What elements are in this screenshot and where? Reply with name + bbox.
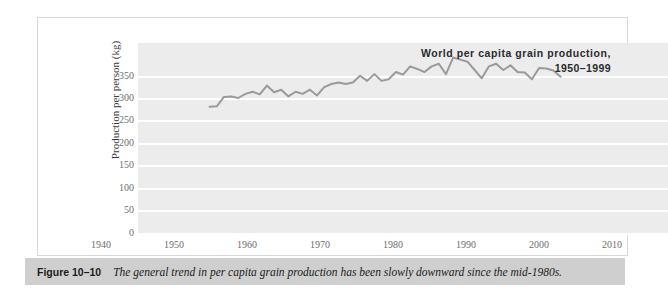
figure-card: World per capita grain production, 1950–… [37, 17, 628, 256]
x-tick-2010: 2010 [590, 239, 634, 250]
chart-title: World per capita grain production, 1950–… [421, 46, 611, 76]
x-tick-1940: 1940 [79, 239, 123, 250]
x-tick-1960: 1960 [225, 239, 269, 250]
y-tick-150: 150 [98, 160, 134, 170]
x-tick-1950: 1950 [152, 239, 196, 250]
figure-caption-label: Figure 10–10 [37, 266, 101, 278]
x-tick-1980: 1980 [371, 239, 415, 250]
y-tick-200: 200 [98, 138, 134, 148]
y-tick-0: 0 [98, 228, 134, 238]
chart-title-main: World per capita grain production, [421, 46, 611, 61]
y-tick-300: 300 [98, 93, 134, 103]
y-tick-350: 350 [98, 71, 134, 81]
figure-caption: Figure 10–10 The general trend in per ca… [37, 258, 562, 285]
figure-caption-band: Figure 10–10 The general trend in per ca… [25, 258, 625, 285]
chart-title-subtitle: 1950–1999 [421, 61, 611, 76]
x-tick-2000: 2000 [517, 239, 561, 250]
x-tick-1990: 1990 [444, 239, 488, 250]
y-axis-ticks: 350 300 250 200 150 100 50 0 [94, 18, 134, 257]
x-axis-ticks: 1940 1950 1960 1970 1980 1990 2000 2010 [38, 239, 629, 253]
x-tick-1970: 1970 [298, 239, 342, 250]
y-tick-50: 50 [98, 205, 134, 215]
figure-caption-text: The general trend in per capita grain pr… [113, 266, 562, 278]
y-tick-250: 250 [98, 115, 134, 125]
y-tick-100: 100 [98, 183, 134, 193]
